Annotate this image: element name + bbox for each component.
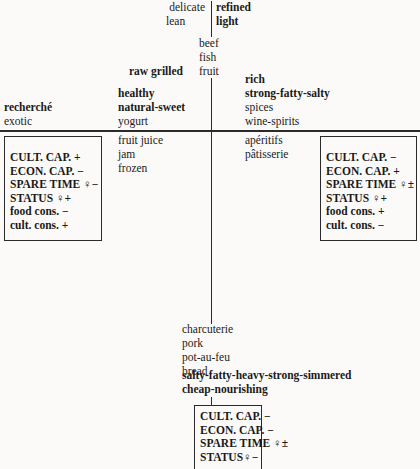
label-fish: fish [199, 51, 216, 64]
vertical-axis-main [211, 78, 212, 324]
label-wine-spirits: wine-spirits [245, 115, 299, 128]
label-exotic: exotic [4, 115, 32, 128]
right-box-status: STATUS ♀+ [326, 192, 411, 206]
label-aperitifs: apéritifs [245, 134, 283, 147]
right-box-food-cons: food cons. + [326, 205, 411, 219]
left-box-status: STATUS ♀+ [10, 192, 96, 206]
label-rich: rich [245, 73, 265, 86]
right-box-cult-cons: cult. cons. − [326, 219, 411, 233]
label-pot-au-feu: pot-au-feu [182, 351, 230, 364]
label-beef: beef [199, 37, 219, 50]
label-spices: spices [245, 101, 273, 114]
left-box-cult-cap: CULT. CAP. + [10, 151, 96, 165]
vertical-axis-top [211, 1, 212, 37]
label-yogurt: yogurt [118, 115, 148, 128]
left-box-cult-cons: cult. cons. + [10, 219, 96, 233]
label-salty-fatty-heavy: salty-fatty-heavy-strong-simmered [182, 369, 352, 382]
right-capital-box: CULT. CAP. − ECON. CAP. + SPARE TIME ♀± … [320, 136, 417, 241]
label-cheap-nourishing: cheap-nourishing [182, 383, 268, 396]
bottom-capital-box: CULT. CAP. − ECON. CAP. − SPARE TIME ♀± … [194, 405, 262, 469]
horizontal-axis [0, 130, 420, 132]
left-box-spare-time: SPARE TIME ♀− [10, 178, 96, 192]
bottom-box-spare-time: SPARE TIME ♀± [200, 437, 256, 451]
label-charcuterie: charcuterie [182, 323, 233, 336]
label-frozen: frozen [118, 162, 147, 175]
label-lean: lean [166, 15, 185, 28]
right-box-spare-time: SPARE TIME ♀± [326, 178, 411, 192]
label-refined: refined [216, 1, 251, 14]
label-patisserie: pâtisserie [245, 148, 288, 161]
left-box-econ-cap: ECON. CAP. − [10, 165, 96, 179]
bottom-box-econ-cap: ECON. CAP. − [200, 424, 256, 438]
right-box-cult-cap: CULT. CAP. − [326, 151, 411, 165]
label-fruit: fruit [199, 65, 219, 78]
label-light: light [216, 15, 238, 28]
label-raw-grilled: raw grilled [129, 65, 183, 78]
left-capital-box: CULT. CAP. + ECON. CAP. − SPARE TIME ♀− … [4, 136, 102, 241]
right-box-econ-cap: ECON. CAP. + [326, 165, 411, 179]
label-fruit-juice: fruit juice [118, 134, 163, 147]
label-jam: jam [118, 148, 135, 161]
label-natural-sweet: natural-sweet [118, 101, 185, 114]
bottom-box-status: STATUS♀− [200, 451, 256, 465]
label-recherche: recherché [4, 101, 52, 114]
label-delicate: delicate [169, 1, 205, 14]
label-strong-fatty-salty: strong-fatty-salty [245, 87, 330, 100]
left-box-food-cons: food cons. − [10, 205, 96, 219]
label-healthy: healthy [118, 87, 154, 100]
bottom-box-cult-cap: CULT. CAP. − [200, 410, 256, 424]
label-pork: pork [182, 337, 203, 350]
